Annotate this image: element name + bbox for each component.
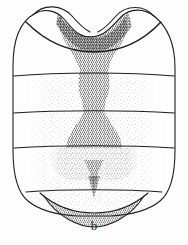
illustration-canvas (0, 0, 188, 245)
figure-root: b (0, 0, 188, 245)
